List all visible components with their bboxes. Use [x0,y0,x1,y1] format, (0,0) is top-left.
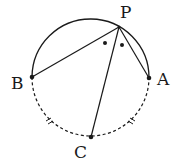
lower-arc-dashed [32,77,149,136]
point-B [30,75,35,80]
label-C: C [74,142,87,162]
point-A [147,76,152,81]
label-P: P [120,2,131,22]
circle-diagram: P A B C [0,0,181,164]
angle-mark-dot-left [103,41,107,45]
segment-PA [119,27,149,78]
point-C [89,135,94,140]
label-A: A [156,69,170,89]
label-B: B [11,73,24,93]
point-P [118,26,121,29]
angle-mark-dot-right [120,43,124,47]
segment-PB [32,27,119,77]
